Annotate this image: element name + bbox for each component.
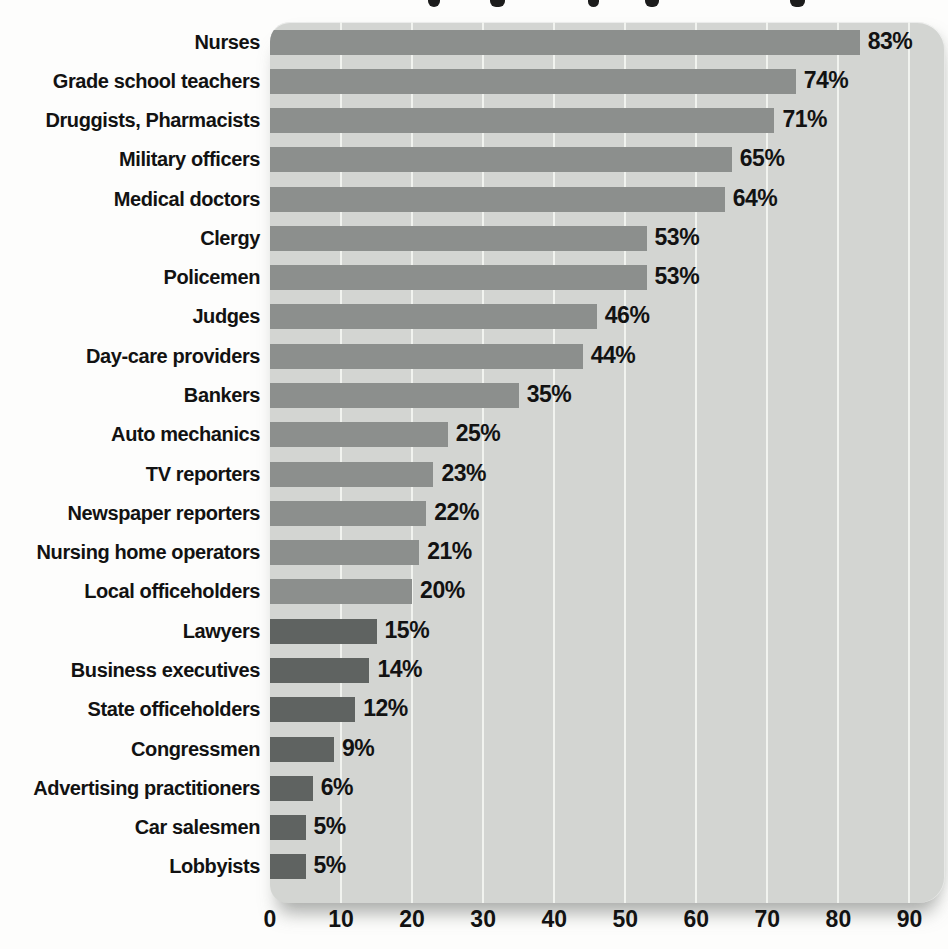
bar — [270, 304, 597, 329]
category-label: Druggists, Pharmacists — [0, 108, 260, 133]
bar-row: 44% — [270, 344, 945, 369]
value-label: 21% — [427, 538, 472, 565]
x-tick-label-50: 50 — [612, 906, 638, 933]
value-label: 23% — [441, 460, 486, 487]
value-label: 14% — [377, 656, 422, 683]
bar — [270, 776, 313, 801]
category-label: Nursing home operators — [0, 540, 260, 565]
bar-row: 21% — [270, 540, 945, 565]
value-label: 71% — [782, 106, 827, 133]
bar-row: 5% — [270, 815, 945, 840]
category-label: Business executives — [0, 658, 260, 683]
bar-row: 23% — [270, 462, 945, 487]
bar-row: 25% — [270, 422, 945, 447]
category-label: Military officers — [0, 147, 260, 172]
category-label: Nurses — [0, 30, 260, 55]
bar — [270, 187, 725, 212]
plot-area: 83%74%71%65%64%53%53%46%44%35%25%23%22%2… — [270, 22, 945, 903]
x-tick-label-30: 30 — [470, 906, 496, 933]
bar — [270, 69, 796, 94]
category-label: Congressmen — [0, 737, 260, 762]
bar — [270, 579, 412, 604]
bar — [270, 422, 448, 447]
cropped-title-descender-mark — [490, 0, 505, 7]
category-label: Clergy — [0, 226, 260, 251]
x-tick-label-60: 60 — [684, 906, 710, 933]
bar — [270, 540, 419, 565]
x-tick-label-40: 40 — [541, 906, 567, 933]
bar — [270, 501, 426, 526]
category-label: Medical doctors — [0, 187, 260, 212]
bar-row: 65% — [270, 147, 945, 172]
bar — [270, 737, 334, 762]
value-label: 53% — [655, 263, 700, 290]
category-label: Lawyers — [0, 619, 260, 644]
bar — [270, 815, 306, 840]
bar-row: 15% — [270, 619, 945, 644]
bar — [270, 854, 306, 879]
value-label: 9% — [342, 735, 374, 762]
bar-row: 83% — [270, 30, 945, 55]
bar-row: 53% — [270, 265, 945, 290]
bar-row: 74% — [270, 69, 945, 94]
category-label: Judges — [0, 304, 260, 329]
bar — [270, 344, 583, 369]
category-label: TV reporters — [0, 462, 260, 487]
value-label: 6% — [321, 774, 353, 801]
bar — [270, 147, 732, 172]
category-label: State officeholders — [0, 697, 260, 722]
category-label: Newspaper reporters — [0, 501, 260, 526]
category-label: Advertising practitioners — [0, 776, 260, 801]
category-label: Car salesmen — [0, 815, 260, 840]
bar — [270, 658, 369, 683]
value-label: 65% — [740, 145, 785, 172]
value-label: 53% — [655, 224, 700, 251]
value-label: 5% — [314, 852, 346, 879]
bar-row: 12% — [270, 697, 945, 722]
bar-row: 5% — [270, 854, 945, 879]
category-label: Grade school teachers — [0, 69, 260, 94]
bar — [270, 697, 355, 722]
x-tick-label-70: 70 — [755, 906, 781, 933]
bar-row: 64% — [270, 187, 945, 212]
value-label: 5% — [314, 813, 346, 840]
value-label: 20% — [420, 577, 465, 604]
category-label: Local officeholders — [0, 579, 260, 604]
bar-row: 53% — [270, 226, 945, 251]
cropped-title-descender-mark — [645, 0, 659, 7]
x-tick-label-20: 20 — [399, 906, 425, 933]
category-label: Bankers — [0, 383, 260, 408]
category-label: Day-care providers — [0, 344, 260, 369]
bar — [270, 265, 647, 290]
cropped-title-descender-mark — [428, 0, 440, 7]
bar-row: 35% — [270, 383, 945, 408]
value-label: 44% — [591, 342, 636, 369]
bar-chart-figure: 83%74%71%65%64%53%53%46%44%35%25%23%22%2… — [0, 0, 948, 949]
x-tick-label-10: 10 — [328, 906, 354, 933]
bar-row: 22% — [270, 501, 945, 526]
value-label: 25% — [456, 420, 501, 447]
bar-row: 9% — [270, 737, 945, 762]
value-label: 22% — [434, 499, 479, 526]
bar-row: 71% — [270, 108, 945, 133]
value-label: 83% — [868, 28, 913, 55]
bar-row: 20% — [270, 579, 945, 604]
bar — [270, 383, 519, 408]
bar-row: 46% — [270, 304, 945, 329]
value-label: 15% — [385, 617, 430, 644]
category-label: Policemen — [0, 265, 260, 290]
value-label: 74% — [804, 67, 849, 94]
bar — [270, 226, 647, 251]
cropped-title-descender-mark — [790, 0, 805, 7]
cropped-title-descender-mark — [588, 0, 599, 7]
bar — [270, 30, 860, 55]
value-label: 46% — [605, 302, 650, 329]
x-tick-label-90: 90 — [897, 906, 923, 933]
x-tick-label-80: 80 — [826, 906, 852, 933]
category-label: Lobbyists — [0, 854, 260, 879]
x-tick-label-0: 0 — [264, 906, 277, 933]
bar — [270, 108, 774, 133]
bar-row: 6% — [270, 776, 945, 801]
bar — [270, 462, 433, 487]
value-label: 64% — [733, 185, 778, 212]
